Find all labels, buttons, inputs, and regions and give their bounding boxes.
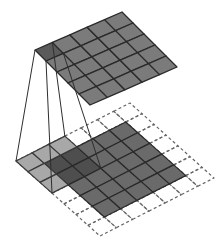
projection-line: [16, 50, 35, 161]
output-grid: [35, 12, 177, 105]
padding-cell: [88, 217, 116, 236]
padding-cell: [186, 167, 214, 186]
convolution-diagram: [0, 0, 224, 248]
padding-cell: [114, 103, 142, 122]
